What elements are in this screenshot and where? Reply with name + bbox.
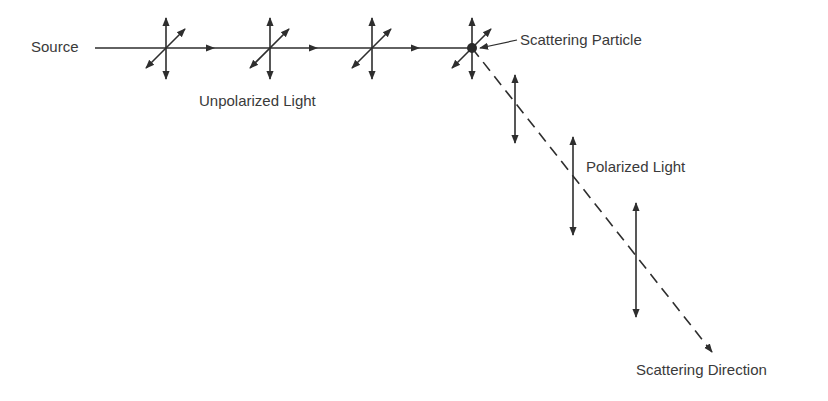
scattered-ray: [472, 48, 712, 352]
scattering-direction-label: Scattering Direction: [636, 361, 767, 378]
unpolarized-light-label: Unpolarized Light: [199, 92, 316, 109]
source-label: Source: [31, 38, 79, 55]
particle-leader-line: [480, 40, 517, 48]
scattering-diagram: [0, 0, 828, 401]
polarized-vectors: [515, 75, 636, 317]
polarized-light-label: Polarized Light: [586, 158, 685, 175]
scattering-particle-dot: [467, 43, 477, 53]
incident-beam: [95, 45, 472, 52]
scattering-particle-label: Scattering Particle: [520, 31, 642, 48]
